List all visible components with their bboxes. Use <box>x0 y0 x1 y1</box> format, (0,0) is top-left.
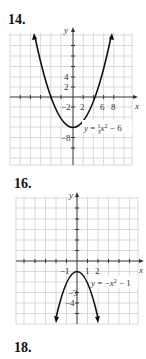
svg-text:2: 2 <box>64 82 69 92</box>
y-axis-arrow-icon <box>75 192 79 197</box>
graph-14: y x 2 6 8 4 2 −2 −8 y = 13x2 − 6 <box>10 25 139 165</box>
svg-text:2: 2 <box>80 102 85 112</box>
svg-text:4: 4 <box>64 72 69 82</box>
equation-16: y = −x2 − 1 <box>90 278 131 288</box>
graph-16: y x −1 1 2 −3 −4 y = −x2 − 1 <box>16 190 144 324</box>
y-axis-label: y <box>68 190 73 200</box>
y-axis-arrow-icon <box>71 27 75 32</box>
curve-arrow-left-icon <box>32 33 37 40</box>
x-axis-label: x <box>138 265 143 275</box>
y-axis-label: y <box>63 25 68 35</box>
problem-number-18: 18. <box>14 340 32 356</box>
curve-arrow-right-icon <box>95 316 100 323</box>
curve-arrow-left-icon <box>54 316 59 323</box>
svg-text:8: 8 <box>111 102 116 112</box>
curve-arrow-right-icon <box>109 33 114 40</box>
svg-text:1: 1 <box>85 266 90 276</box>
svg-text:2: 2 <box>95 266 100 276</box>
x-axis-label: x <box>134 101 139 111</box>
svg-text:−1: −1 <box>60 266 70 276</box>
x-axis-arrow-icon <box>133 95 138 99</box>
problem-number-16: 16. <box>14 176 32 192</box>
x-axis-arrow-icon <box>139 259 144 263</box>
svg-text:−3: −3 <box>68 288 78 298</box>
svg-text:−4: −4 <box>65 298 75 308</box>
svg-text:−2: −2 <box>61 102 71 112</box>
svg-text:6: 6 <box>100 102 105 112</box>
svg-text:−8: −8 <box>61 133 71 143</box>
